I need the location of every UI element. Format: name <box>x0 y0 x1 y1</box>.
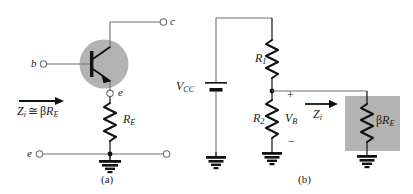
panel-a-right-terminal-node <box>163 151 169 157</box>
r2-label: R2 <box>253 112 264 126</box>
emitter-resistor-subscript-text: E <box>130 118 135 127</box>
load-ground-icon <box>357 155 377 168</box>
r1-subscript-text: 1 <box>262 57 266 66</box>
r1-resistor-symbol <box>266 40 278 78</box>
collector-terminal-label: c <box>170 16 175 27</box>
vcc-battery-symbol <box>205 82 227 92</box>
zi-relation-text: ≅ <box>26 104 40 118</box>
emitter-bottom-terminal-node <box>36 151 42 157</box>
base-terminal-node <box>40 61 46 67</box>
polarity-minus-label: − <box>288 135 295 147</box>
zi-resistor-subscript-text: E <box>53 110 58 119</box>
circuit-svg <box>0 0 413 194</box>
emitter-terminal-node <box>107 90 113 96</box>
emitter-bottom-terminal-label: e <box>27 148 32 159</box>
base-terminal-label: b <box>31 58 37 69</box>
zi-symbol-text: Z <box>17 104 24 118</box>
panel-b-impedance-arrow <box>305 100 338 108</box>
reflected-resistor-subscript-text: E <box>389 119 394 128</box>
vcc-subscript-text: CC <box>183 85 194 94</box>
panel-a-ground-icon <box>99 154 121 173</box>
base-voltage-label: VB <box>285 112 297 126</box>
transistor-base-bar <box>90 51 93 77</box>
panel-b-zi-subscript-text: i <box>320 113 322 122</box>
r1-label: R1 <box>255 52 266 66</box>
panel-a-input-impedance-label: Zi≅βRE <box>17 105 58 119</box>
reflected-resistance-label: βRE <box>376 114 394 128</box>
panel-b-zi-symbol-text: Z <box>313 107 320 121</box>
emitter-resistor-symbol <box>104 103 116 141</box>
vcc-ground-icon <box>206 152 226 169</box>
circuit-figure: b c e e RE Zi≅βRE (a) VCC R1 R2 VB + − Z… <box>0 0 413 194</box>
vcc-label: VCC <box>176 80 194 94</box>
emitter-resistor-label: RE <box>123 113 135 127</box>
r2-subscript-text: 2 <box>260 117 264 126</box>
panel-b-caption: (b) <box>298 174 311 185</box>
emitter-terminal-label: e <box>118 87 123 98</box>
r2-ground-icon <box>262 152 282 165</box>
r2-resistor-symbol <box>266 100 278 138</box>
panel-b-input-impedance-label: Zi <box>313 108 322 122</box>
polarity-plus-label: + <box>287 89 294 101</box>
collector-terminal-node <box>160 19 166 25</box>
vb-subscript-text: B <box>292 117 297 126</box>
panel-a-caption: (a) <box>101 174 113 185</box>
